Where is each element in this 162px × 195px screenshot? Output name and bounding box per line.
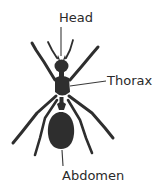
ant-anatomy-diagram: Head Thorax Abdomen xyxy=(0,0,162,195)
head-shape xyxy=(55,60,69,73)
thorax-shape xyxy=(55,76,70,96)
right-front-leg xyxy=(70,47,98,80)
abdomen-label: Abdomen xyxy=(62,169,124,183)
thorax-label: Thorax xyxy=(107,74,152,88)
petiole-knob xyxy=(57,102,66,110)
thorax-leader-line xyxy=(70,81,106,86)
ant-illustration xyxy=(0,0,162,195)
abdomen-leader-line xyxy=(62,150,63,166)
right-middle-leg xyxy=(69,96,113,138)
abdomen-shape xyxy=(48,112,74,149)
right-antenna xyxy=(66,40,73,58)
head-label: Head xyxy=(59,11,93,25)
left-antenna xyxy=(48,42,57,58)
